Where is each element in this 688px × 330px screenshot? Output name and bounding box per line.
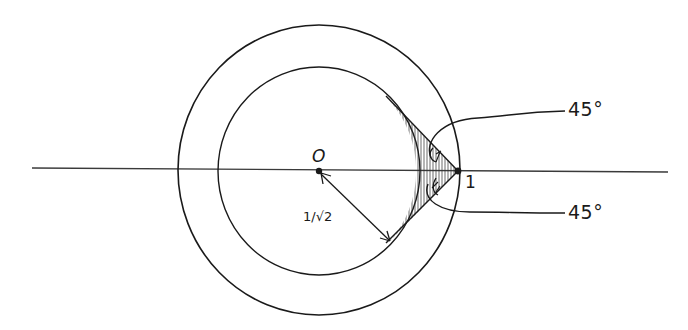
origin-label: O <box>312 148 325 165</box>
radius-label: 1/√2 <box>303 210 332 223</box>
hatched-region <box>389 100 458 242</box>
leader-line-top <box>429 111 565 158</box>
real-axis <box>32 168 668 172</box>
angle-label-bottom: 45° <box>568 203 603 222</box>
leader-line-bottom <box>427 184 565 213</box>
radius-arrow <box>321 174 389 240</box>
angle-label-top: 45° <box>568 100 603 119</box>
point-one-label: 1 <box>465 174 476 191</box>
origin-point <box>316 168 322 174</box>
point-one-marker <box>455 168 462 175</box>
diagram-canvas <box>0 0 688 330</box>
